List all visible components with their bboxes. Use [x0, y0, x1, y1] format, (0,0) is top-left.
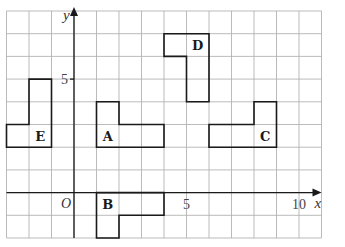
shape-label: B	[102, 197, 113, 212]
y-tick-labels: 5	[61, 72, 74, 87]
y-axis-label: y	[61, 7, 70, 23]
shape-label: A	[102, 129, 114, 144]
x-axis-label: x	[314, 195, 322, 211]
shape-label: E	[35, 129, 45, 144]
shape-label: D	[192, 38, 203, 53]
coordinate-grid-diagram: x y O 510 5 ABCDE	[0, 0, 345, 247]
x-tick-label: 5	[183, 197, 190, 212]
shape-label: C	[260, 129, 270, 144]
y-axis-arrow-icon	[70, 7, 78, 16]
x-tick-label: 10	[292, 197, 306, 212]
y-tick-label: 5	[61, 72, 68, 87]
x-tick-labels: 510	[183, 197, 306, 212]
origin-label: O	[61, 196, 71, 211]
